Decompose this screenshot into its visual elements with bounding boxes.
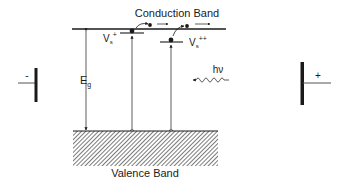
valence-band-region bbox=[73, 131, 218, 166]
photon-label: hν bbox=[213, 64, 224, 75]
surface-state-label-1: Vs+ bbox=[103, 31, 117, 45]
electron-dot bbox=[169, 38, 174, 43]
electron-dot bbox=[130, 29, 135, 34]
negative-electrode-plate bbox=[35, 68, 38, 102]
positive-sign: + bbox=[315, 70, 321, 81]
electron-dot bbox=[185, 24, 189, 28]
photon-wave-icon bbox=[193, 78, 229, 82]
escape-arrow-2 bbox=[173, 26, 184, 36]
negative-sign: - bbox=[25, 70, 28, 81]
valence-band-label: Valence Band bbox=[111, 167, 179, 179]
band-diagram: Conduction Band Eg Vs+ Vs++ hν Valence B… bbox=[0, 0, 350, 183]
surface-state-label-2: Vs++ bbox=[189, 35, 207, 49]
conduction-band-label: Conduction Band bbox=[135, 7, 219, 19]
electron-dot bbox=[148, 23, 152, 27]
escape-arrow-1 bbox=[136, 24, 148, 29]
